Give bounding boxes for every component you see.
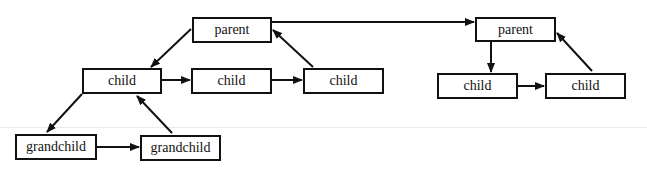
node-grandchild-1[interactable]: grandchild — [15, 134, 97, 160]
node-label: child — [464, 78, 492, 94]
node-parent-right[interactable]: parent — [475, 17, 556, 42]
node-label: child — [108, 73, 136, 89]
diagram-canvas: parent child child child grandchild gran… — [0, 0, 647, 171]
node-child-left-2[interactable]: child — [191, 68, 272, 94]
node-child-right-2[interactable]: child — [545, 73, 626, 99]
node-label: child — [330, 73, 358, 89]
node-child-left-1[interactable]: child — [82, 68, 162, 94]
arrow-c5-to-p2 — [557, 33, 592, 71]
arrow-c3-to-p1 — [273, 30, 313, 67]
node-parent-left[interactable]: parent — [192, 17, 272, 43]
node-child-right-1[interactable]: child — [437, 73, 518, 99]
node-label: grandchild — [26, 139, 86, 155]
node-grandchild-2[interactable]: grandchild — [140, 135, 221, 161]
node-label: parent — [498, 22, 533, 38]
node-label: child — [218, 73, 246, 89]
node-label: child — [572, 78, 600, 94]
node-child-left-3[interactable]: child — [303, 68, 384, 94]
arrow-p1-to-c1 — [151, 29, 191, 67]
arrow-c1-to-g1 — [47, 94, 82, 132]
node-label: parent — [215, 22, 250, 38]
node-label: grandchild — [151, 140, 211, 156]
arrow-g2-to-c1 — [137, 96, 172, 133]
